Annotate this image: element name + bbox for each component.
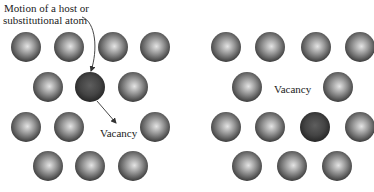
left-panel-atoms: [11, 32, 170, 181]
host-atom: [54, 112, 84, 142]
motion-label-line1: Motion of a host or: [4, 2, 89, 14]
host-atom: [98, 32, 128, 62]
motion-label-line2: substitutional atom: [3, 14, 87, 26]
moving-atom: [300, 112, 330, 142]
moving-atom: [75, 72, 105, 102]
host-atom: [345, 112, 374, 142]
host-atom: [33, 72, 63, 102]
host-atom: [255, 32, 285, 62]
host-atom: [277, 151, 307, 181]
host-atom: [11, 112, 41, 142]
host-atom: [301, 32, 331, 62]
host-atom: [323, 72, 353, 102]
host-atom: [322, 151, 352, 181]
diagram-canvas: Motion of a host or substitutional atom …: [0, 0, 374, 192]
host-atom: [232, 151, 262, 181]
host-atom: [11, 32, 41, 62]
host-atom: [232, 72, 262, 102]
host-atom: [255, 112, 285, 142]
host-atom: [211, 112, 241, 142]
host-atom: [118, 72, 148, 102]
host-atom: [75, 151, 105, 181]
vacancy-diffusion-diagram: Motion of a host or substitutional atom …: [0, 0, 374, 192]
host-atom: [211, 32, 241, 62]
host-atom: [140, 112, 170, 142]
right-panel-atoms: [211, 32, 374, 181]
vacancy-label-left: Vacancy: [100, 127, 138, 139]
motion-arrow-to-vacancy: [97, 101, 116, 123]
host-atom: [118, 151, 148, 181]
host-atom: [345, 32, 374, 62]
host-atom: [33, 151, 63, 181]
vacancy-label-right: Vacancy: [274, 83, 312, 95]
host-atom: [140, 32, 170, 62]
host-atom: [54, 32, 84, 62]
